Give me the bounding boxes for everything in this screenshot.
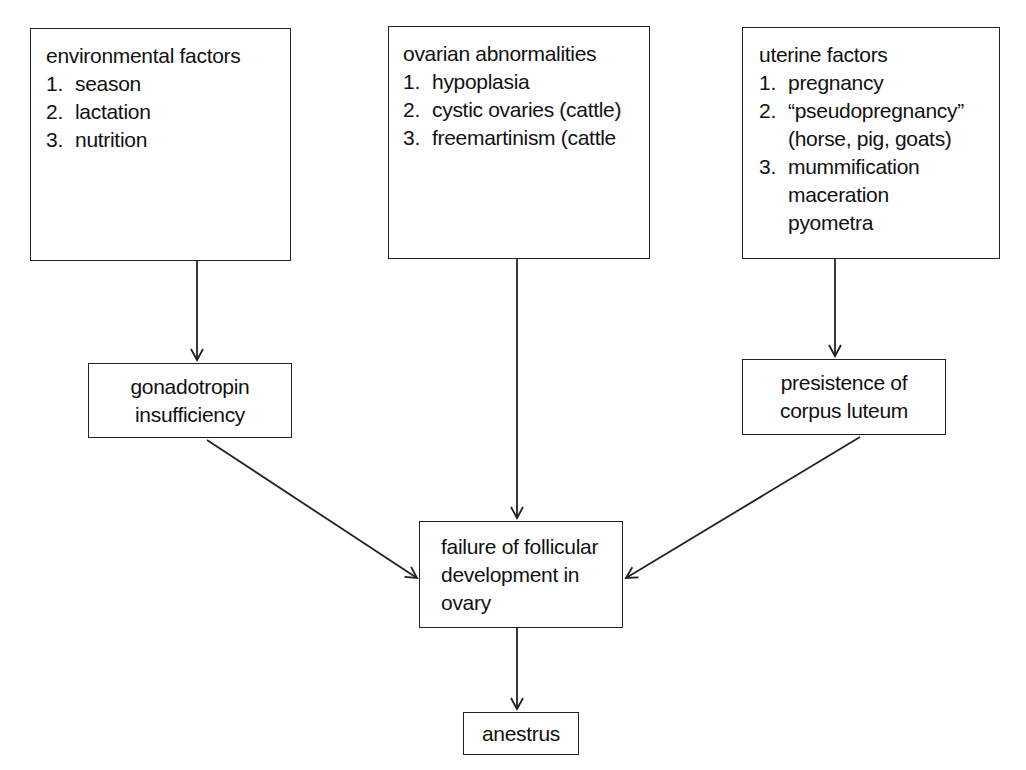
follicular-failure-box: failure of follicular development in ova… xyxy=(419,521,623,628)
uterine-factors-box: uterine factors 1. pregnancy 2. “pseudop… xyxy=(742,27,1000,259)
gonadotropin-insufficiency-box: gonadotropin insufficiency xyxy=(88,363,292,438)
list-text: mummification xyxy=(788,153,919,181)
list-item: 1. pregnancy xyxy=(759,69,999,97)
list-text: season xyxy=(75,70,141,98)
node-text: gonadotropin xyxy=(130,373,249,401)
list-number: 1. xyxy=(46,70,75,98)
ovarian-abnormalities-list: 1. hypoplasia 2. cystic ovaries (cattle)… xyxy=(403,68,649,152)
list-text: freemartinism (cattle xyxy=(432,124,616,152)
list-number: 1. xyxy=(759,69,788,97)
node-text: anestrus xyxy=(482,720,560,748)
node-text: ovary xyxy=(441,589,622,617)
arrow-corpus-luteum-to-failure xyxy=(626,437,860,578)
node-text: insufficiency xyxy=(135,401,245,429)
list-number: 3. xyxy=(759,153,788,237)
list-text: pyometra xyxy=(788,209,919,237)
list-number: 2. xyxy=(46,98,75,126)
corpus-luteum-box: presistence of corpus luteum xyxy=(742,359,946,435)
list-text: “pseudopregnancy” xyxy=(788,97,964,125)
node-text: development in xyxy=(441,561,622,589)
environmental-factors-list: 1. season 2. lactation 3. nutrition xyxy=(46,70,290,154)
list-number: 3. xyxy=(46,126,75,154)
node-text: failure of follicular xyxy=(441,533,622,561)
list-item: 3. freemartinism (cattle xyxy=(403,124,649,152)
list-number: 2. xyxy=(759,97,788,153)
list-number: 2. xyxy=(403,96,432,124)
list-item: 1. hypoplasia xyxy=(403,68,649,96)
list-text: lactation xyxy=(75,98,151,126)
list-number: 3. xyxy=(403,124,432,152)
list-item: 1. season xyxy=(46,70,290,98)
list-item: 3. nutrition xyxy=(46,126,290,154)
ovarian-abnormalities-title: ovarian abnormalities xyxy=(403,40,649,68)
environmental-factors-box: environmental factors 1. season 2. lacta… xyxy=(30,28,291,261)
list-item: 2. “pseudopregnancy” (horse, pig, goats) xyxy=(759,97,999,153)
arrow-gonadotropin-to-failure xyxy=(207,440,417,578)
list-text: nutrition xyxy=(75,126,147,154)
list-text: pregnancy xyxy=(788,69,883,97)
list-item: 2. lactation xyxy=(46,98,290,126)
list-item: 2. cystic ovaries (cattle) xyxy=(403,96,649,124)
uterine-factors-title: uterine factors xyxy=(759,41,999,69)
list-text: cystic ovaries (cattle) xyxy=(432,96,621,124)
list-text: hypoplasia xyxy=(432,68,529,96)
ovarian-abnormalities-box: ovarian abnormalities 1. hypoplasia 2. c… xyxy=(388,26,650,259)
list-text: maceration xyxy=(788,181,919,209)
list-number: 1. xyxy=(403,68,432,96)
list-text: (horse, pig, goats) xyxy=(788,125,964,153)
node-text: corpus luteum xyxy=(780,397,908,425)
node-text: presistence of xyxy=(781,369,908,397)
uterine-factors-list: 1. pregnancy 2. “pseudopregnancy” (horse… xyxy=(759,69,999,237)
anestrus-box: anestrus xyxy=(463,712,579,755)
list-item: 3. mummification maceration pyometra xyxy=(759,153,999,237)
environmental-factors-title: environmental factors xyxy=(46,42,290,70)
